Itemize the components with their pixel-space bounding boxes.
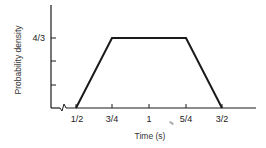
x-tick-label-5-4: 5/4 <box>180 114 193 124</box>
chart-canvas: 4/3 1/2 3/4 1 5/4 3/2 Probability densit… <box>0 0 266 148</box>
x-tick-label-3-2: 3/2 <box>216 114 229 124</box>
y-tick-label-4-3: 4/3 <box>32 33 45 43</box>
y-axis-title: Probability density <box>13 25 23 95</box>
pdf-line <box>76 38 222 108</box>
x-axis-title: Time (s) <box>135 131 166 141</box>
x-tick-label-3-4: 3/4 <box>106 114 119 124</box>
x-tick-label-1-2: 1/2 <box>71 114 84 124</box>
axis-break-icon <box>60 104 66 111</box>
x-tick-label-1: 1 <box>146 114 151 124</box>
